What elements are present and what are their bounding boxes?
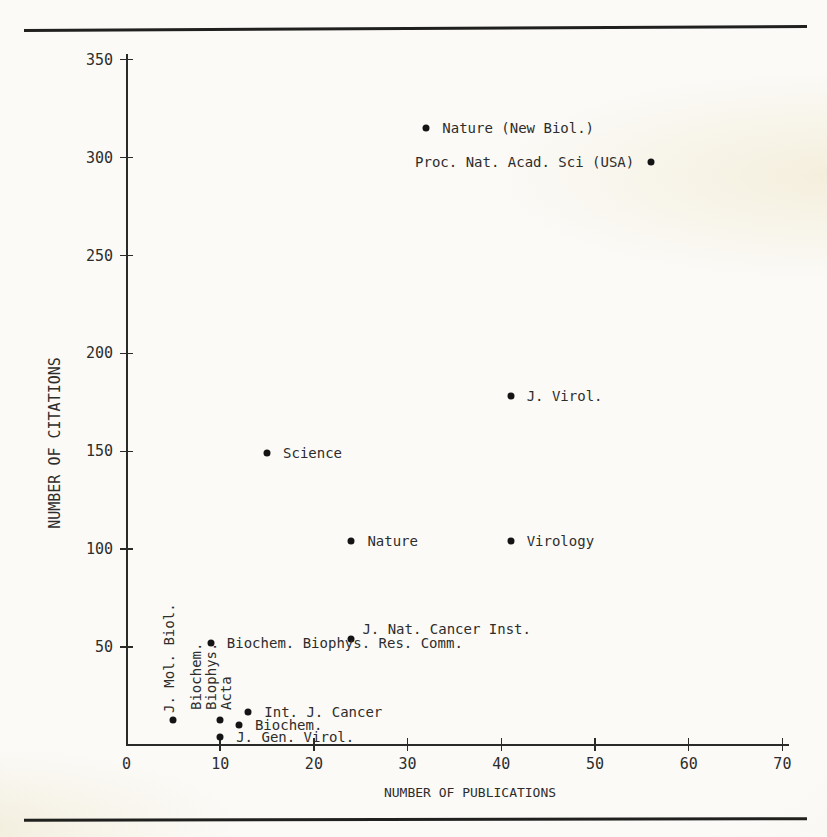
x-axis-tick-label: 0 [122, 755, 131, 773]
data-point-dot [235, 722, 242, 729]
data-point-dot [423, 125, 430, 132]
x-axis-tick-label: 30 [399, 755, 417, 773]
data-point-dot [348, 538, 355, 545]
y-axis-tick [120, 59, 133, 61]
y-axis-tick [120, 157, 133, 159]
data-point-dot [217, 734, 224, 741]
y-axis-tick-label: 200 [86, 344, 113, 362]
bottom-rule [24, 817, 807, 822]
x-axis-title: NUMBER OF PUBLICATIONS [384, 785, 556, 800]
x-axis-tick [407, 738, 409, 751]
y-axis-title: NUMBER OF CITATIONS [46, 357, 64, 529]
x-axis-tick-label: 50 [586, 755, 604, 773]
y-axis-tick-label: 350 [86, 51, 113, 69]
data-point-label: J. Gen. Virol. [236, 729, 354, 745]
x-axis-tick [594, 738, 596, 751]
data-point-label: Science [283, 445, 342, 461]
data-point-dot [507, 538, 514, 545]
data-point-dot [648, 158, 655, 165]
x-axis-tick [501, 738, 503, 751]
data-point-dot [264, 450, 271, 457]
data-point-dot [170, 716, 177, 723]
y-axis-tick [120, 353, 133, 355]
x-axis-line [126, 744, 789, 746]
x-axis-tick-label: 40 [492, 755, 510, 773]
y-axis-tick [120, 548, 133, 550]
data-point-label: J. Virol. [527, 388, 603, 404]
y-axis-tick-label: 300 [86, 149, 113, 167]
data-point-dot [245, 708, 252, 715]
x-axis-tick-label: 20 [305, 755, 323, 773]
data-point-label: Nature (New Biol.) [442, 120, 594, 136]
data-point-dot [217, 716, 224, 723]
x-axis-tick-label: 10 [211, 755, 229, 773]
x-axis-tick [688, 738, 690, 751]
data-point-label: Nature [367, 533, 418, 549]
data-point-label-text: J. Mol. Biol. [162, 603, 177, 713]
x-axis-tick [782, 738, 784, 751]
y-axis-tick [120, 451, 133, 453]
data-point-dot [507, 393, 514, 400]
y-axis-tick-label: 250 [86, 247, 113, 265]
y-axis-tick-label: 150 [86, 442, 113, 460]
y-axis-tick [120, 255, 133, 257]
top-rule [24, 25, 807, 32]
data-point-label-text: Biochem. Biophys. Acta [189, 642, 234, 709]
data-point-label: Virology [527, 533, 594, 549]
x-axis-tick-label: 70 [773, 755, 791, 773]
y-axis-tick-label: 100 [86, 540, 113, 558]
x-axis-tick-label: 60 [680, 755, 698, 773]
y-axis-tick-label: 50 [95, 638, 113, 656]
data-point-label: Proc. Nat. Acad. Sci (USA) [415, 154, 634, 170]
y-axis-tick [120, 646, 133, 648]
data-point-label: Biochem. Biophys. Res. Comm. [227, 635, 463, 651]
